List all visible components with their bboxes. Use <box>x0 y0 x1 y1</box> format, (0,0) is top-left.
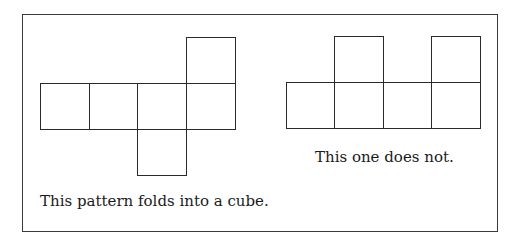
left-net-square <box>89 83 138 130</box>
right-net-caption: This one does not. <box>315 150 454 165</box>
right-net-square <box>334 36 384 83</box>
left-net-square <box>40 83 90 130</box>
left-net-square <box>137 83 187 130</box>
right-net-square <box>431 36 481 83</box>
left-net-square <box>137 129 187 176</box>
left-net-caption: This pattern folds into a cube. <box>40 194 269 209</box>
right-net-square <box>431 82 481 129</box>
right-net-square <box>383 82 432 129</box>
left-net-square <box>186 83 236 130</box>
right-net-square <box>286 82 335 129</box>
right-net-square <box>334 82 384 129</box>
left-net-square <box>186 37 236 84</box>
